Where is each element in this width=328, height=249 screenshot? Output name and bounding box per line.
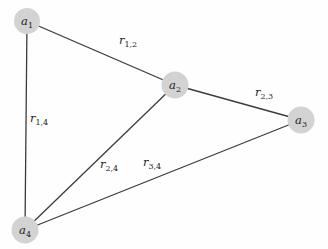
edge-label-a1-a2: r1,2 xyxy=(119,33,137,49)
edge-label-a2-a4: r2,4 xyxy=(100,157,118,173)
edge-label-a3-a4: r3,4 xyxy=(143,155,161,171)
edge-a2-a3 xyxy=(175,85,301,120)
edge-label-a1-a4: r1,4 xyxy=(30,111,48,127)
edge-label-a2-a3: r2,3 xyxy=(255,85,273,101)
diagram-canvas: r1,2r1,4r2,3r2,4r3,4a1a2a3a4 xyxy=(0,0,328,249)
edge-a1-a2 xyxy=(27,21,175,85)
edge-a3-a4 xyxy=(25,120,301,230)
edge-a1-a4 xyxy=(25,21,27,230)
graph-svg: r1,2r1,4r2,3r2,4r3,4a1a2a3a4 xyxy=(0,0,328,249)
